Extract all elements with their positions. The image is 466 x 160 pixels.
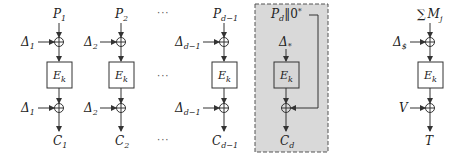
svg-text:Δd−1: Δd−1 <box>174 35 201 51</box>
svg-text:P2: P2 <box>114 7 128 23</box>
svg-text:Δ2: Δ2 <box>83 101 98 117</box>
ellipsis: ··· <box>157 70 170 81</box>
tag-mask-out-label: V <box>399 101 409 115</box>
checksum-label: ∑Mj <box>417 7 443 23</box>
svg-text:Pd−1: Pd−1 <box>212 7 238 23</box>
svg-text:Ek: Ek <box>114 69 128 84</box>
plaintext-label-1: P1 <box>52 7 66 23</box>
svg-text:Ek: Ek <box>217 69 231 84</box>
tag-block: ∑Mj Δ$ Ek V T <box>392 7 443 148</box>
tag-output-label: T <box>425 134 434 148</box>
mask-out-label-1: Δ1 <box>20 101 35 117</box>
mask-in-label-1: Δ1 <box>20 35 35 51</box>
final-plaintext-label: Pd‖0* <box>270 7 302 23</box>
svg-text:Δd−1: Δd−1 <box>174 101 201 117</box>
ocb-mode-diagram: P1 Δ1 Ek Δ1 C1 P2 Δ2 Ek Δ2 C2 ··· <box>0 0 466 160</box>
ciphertext-label-1: C1 <box>53 134 67 150</box>
svg-text:C2: C2 <box>115 134 129 150</box>
ellipsis: ··· <box>157 134 170 145</box>
block-column-2: P2 Δ2 Ek Δ2 C2 <box>83 7 134 150</box>
ellipsis: ··· <box>157 7 170 18</box>
svg-text:Ek: Ek <box>52 69 66 84</box>
block-column-d-minus-1: Pd−1 Δd−1 Ek Δd−1 Cd−1 <box>174 7 238 150</box>
block-column-1: P1 Δ1 Ek Δ1 C1 <box>20 7 72 150</box>
tag-mask-label: Δ$ <box>392 35 407 51</box>
svg-text:Ek: Ek <box>423 69 437 84</box>
svg-text:Cd−1: Cd−1 <box>212 134 238 150</box>
svg-text:Δ2: Δ2 <box>83 35 98 51</box>
